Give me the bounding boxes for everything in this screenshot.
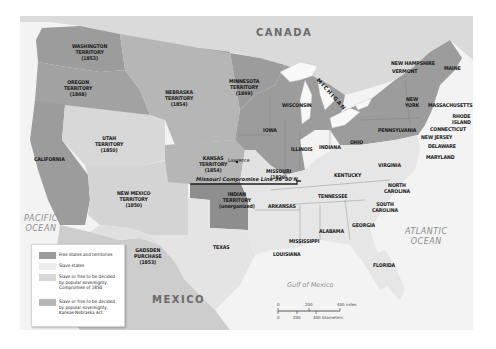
maine-label: MAINE — [444, 65, 461, 71]
kentucky-label: KENTUCKY — [334, 172, 361, 178]
scale-bar: 0 200 400 miles 0 200 400 kilometers — [275, 298, 355, 328]
legend-label-slave: Slave states — [59, 263, 84, 269]
georgia-label: GEORGIA — [352, 222, 375, 228]
legend-label-kansas-nebraska: Slave or free to be decided by popular s… — [59, 299, 115, 316]
scale-miles-400: 400 miles — [337, 302, 357, 307]
missouri-label: MISSOURI (1820) — [266, 168, 291, 180]
legend-swatch-compromise-1850 — [39, 274, 56, 281]
gulf-of-mexico-label: Gulf of Mexico — [287, 281, 333, 289]
legend-item-compromise-1850: Slave or free to be decided by popular s… — [39, 274, 115, 291]
new-mexico-territory-label: NEW MEXICO TERRITORY (1850) — [117, 190, 150, 208]
legend-swatch-slave — [39, 263, 56, 270]
legend-label-free: Free states and territories — [59, 252, 112, 258]
gadsden-purchase-label: GADSDEN PURCHASE (1853) — [134, 247, 162, 265]
louisiana-label: LOUISIANA — [273, 251, 301, 257]
canada-label: CANADA — [256, 27, 312, 38]
maryland-label: MARYLAND — [426, 154, 455, 160]
map-legend: Free states and territories Slave states… — [31, 244, 125, 327]
legend-swatch-kansas-nebraska — [39, 299, 56, 306]
utah-territory-label: UTAH TERRITORY (1850) — [95, 135, 123, 153]
illinois-label: ILLINOIS — [291, 146, 313, 152]
alabama-label: ALABAMA — [319, 228, 344, 234]
vermont-label: VERMONT — [392, 68, 417, 74]
legend-label-compromise-1850: Slave or free to be decided by popular s… — [59, 274, 115, 291]
new-hampshire-label: NEW HAMPSHIRE — [391, 60, 435, 66]
mississippi-label: MISSISSIPPI — [289, 238, 319, 244]
minnesota-territory-label: MINNESOTA TERRITORY (1849) — [229, 78, 259, 96]
washington-territory-label: WASHINGTON TERRITORY (1853) — [72, 43, 107, 61]
scale-km-0: 0 — [277, 315, 280, 320]
ohio-label: OHIO — [350, 139, 363, 145]
connecticut-label: CONNECTICUT — [430, 126, 466, 132]
delaware-label: DELAWARE — [428, 143, 456, 149]
new-york-label: NEW YORK — [405, 96, 419, 108]
pacific-ocean-label: PACIFIC OCEAN — [24, 214, 58, 234]
lawrence-label: Lawrence — [228, 157, 250, 163]
north-carolina-label: NORTH CAROLINA — [384, 182, 410, 194]
pennsylvania-label: PENNSYLVANIA — [378, 127, 416, 133]
scale-km-200: 200 — [293, 315, 301, 320]
atlantic-ocean-label: ATLANTIC OCEAN — [405, 227, 448, 247]
legend-item-kansas-nebraska: Slave or free to be decided by popular s… — [39, 299, 115, 316]
legend-item-free: Free states and territories — [39, 252, 112, 259]
scale-miles-200: 200 — [305, 302, 313, 307]
texas-label: TEXAS — [213, 244, 229, 250]
indian-territory-label: INDIAN TERRITORY (unorganized) — [219, 191, 255, 209]
mexico-label: MEXICO — [152, 294, 205, 305]
nebraska-territory-label: NEBRASKA TERRITORY (1854) — [165, 89, 193, 107]
massachusetts-label: MASSACHUSETTS — [428, 102, 473, 108]
rhode-island-label: RHODE ISLAND — [452, 113, 471, 125]
california-label: CALIFORNIA — [34, 156, 65, 162]
kansas-territory-label: KANSAS TERRITORY (1854) — [199, 155, 227, 173]
arkansas-label: ARKANSAS — [268, 203, 296, 209]
indiana-label: INDIANA — [319, 144, 341, 150]
oregon-territory-label: OREGON TERRITORY (1848) — [64, 79, 92, 97]
south-carolina-label: SOUTH CAROLINA — [372, 201, 398, 213]
florida-label: FLORIDA — [373, 262, 395, 268]
tennessee-label: TENNESSEE — [318, 193, 347, 199]
scale-miles-0: 0 — [277, 302, 280, 307]
wisconsin-label: WISCONSIN — [282, 102, 312, 108]
scale-km-400: 400 kilometers — [313, 315, 343, 320]
legend-swatch-free — [39, 252, 56, 259]
legend-item-slave: Slave states — [39, 263, 84, 270]
new-jersey-label: NEW JERSEY — [421, 134, 452, 140]
iowa-label: IOWA — [263, 127, 277, 133]
virginia-label: VIRGINIA — [378, 162, 401, 168]
